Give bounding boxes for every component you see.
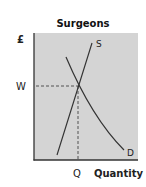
supply-label: S — [96, 39, 102, 49]
plot-area — [34, 33, 138, 160]
wage-label: W — [16, 81, 26, 92]
quantity-q-label: Q — [73, 168, 81, 179]
supply-demand-chart: £ W Q Quantity S D — [0, 0, 146, 187]
x-axis-label: Quantity — [94, 168, 143, 179]
y-axis-label: £ — [17, 34, 24, 45]
demand-label: D — [127, 148, 134, 158]
